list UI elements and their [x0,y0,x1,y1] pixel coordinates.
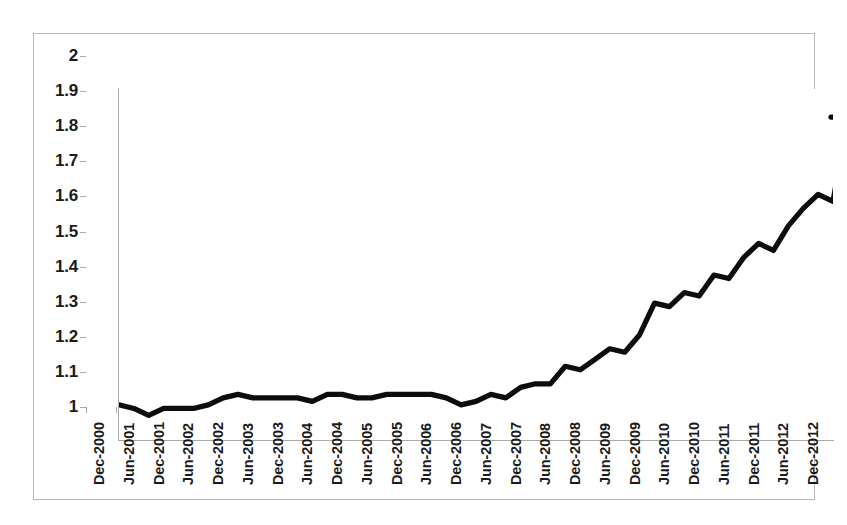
x-axis-labels: Dec-2000Jun-2001Dec-2001Jun-2002Dec-2002… [34,34,814,499]
x-tick-label: Dec-2003 [271,422,286,485]
x-tick-label: Dec-2000 [92,422,107,485]
x-tick-label: Jun-2010 [657,423,672,485]
x-tick-label: Dec-2004 [330,422,345,485]
x-tick-label: Dec-2002 [211,422,226,485]
x-tick-label: Jun-2009 [598,423,613,485]
x-tick-label: Jun-2001 [122,423,137,485]
x-tick-label: Jun-2012 [776,423,791,485]
x-tick-label: Jun-2006 [419,423,434,485]
x-tick-label: Jun-2004 [300,423,315,485]
x-tick-label: Dec-2011 [747,423,762,485]
x-tick-label: Jun-2002 [181,423,196,485]
chart-frame: 21.91.81.71.61.51.41.31.21.11 Dec-2000Ju… [33,33,815,500]
x-tick-label: Dec-2009 [628,422,643,485]
x-tick-label: Jun-2011 [717,424,732,485]
x-tick-label: Dec-2008 [568,422,583,485]
x-tick-label: Dec-2006 [449,422,464,485]
x-tick-label: Jun-2005 [360,423,375,485]
x-tick-label: Dec-2001 [152,422,167,485]
x-tick-label: Dec-2012 [806,422,821,485]
x-tick-label: Dec-2005 [390,422,405,485]
x-tick-label: Dec-2010 [687,422,702,485]
x-tick-label: Dec-2007 [509,422,524,485]
x-tick-label: Jun-2007 [479,423,494,485]
x-tick-label: Jun-2008 [538,423,553,485]
x-tick-label: Jun-2003 [241,423,256,485]
chart-screenshot: 21.91.81.71.61.51.41.31.21.11 Dec-2000Ju… [0,0,847,525]
